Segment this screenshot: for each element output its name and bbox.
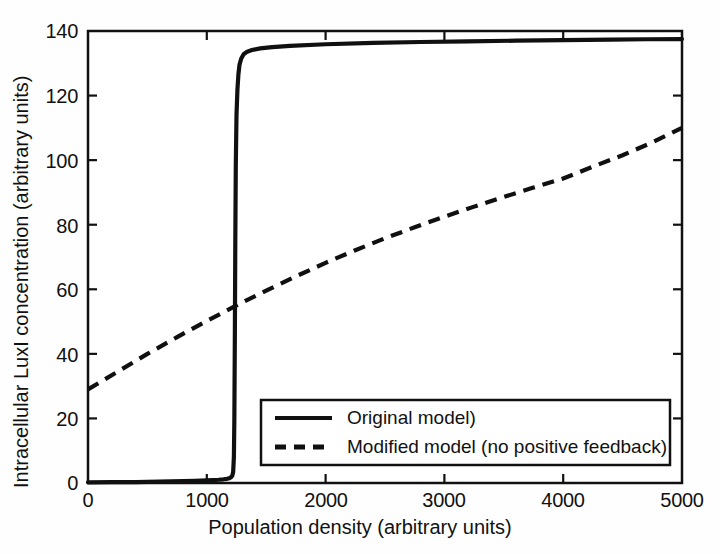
y-tick-label: 80: [56, 215, 78, 238]
legend-label-modified-model: Modified model (no positive feedback): [347, 436, 667, 458]
y-axis-label: Intracellular LuxI concentration (arbitr…: [10, 76, 33, 488]
figure-canvas: 140 120 100 80 60 40 20 0 0 1000 2000 30…: [0, 0, 720, 554]
y-tick-label: 100: [46, 150, 78, 173]
x-tick-label: 0: [83, 489, 94, 512]
legend-label-original-model: Original model): [347, 407, 476, 429]
y-tick-label: 0: [67, 472, 78, 495]
x-tick-label: 1000: [185, 489, 228, 512]
y-tick-label: 40: [56, 344, 78, 367]
x-tick-label: 2000: [304, 489, 347, 512]
y-tick-label: 20: [56, 408, 78, 431]
y-tick-label: 120: [46, 85, 78, 108]
x-tick-label: 4000: [541, 489, 584, 512]
x-tick-label: 3000: [422, 489, 465, 512]
y-tick-label: 140: [46, 20, 78, 43]
y-tick-label: 60: [56, 279, 78, 302]
x-axis-label: Population density (arbitrary units): [0, 516, 720, 539]
plot-svg: [0, 0, 720, 554]
x-tick-label: 5000: [660, 489, 703, 512]
